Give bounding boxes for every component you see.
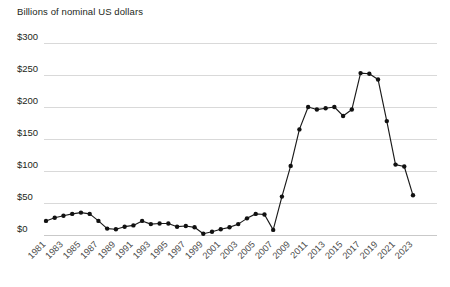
x-tick-label: 2007 [253, 239, 275, 261]
data-point[interactable] [323, 106, 327, 110]
x-tick-label: 2009 [271, 239, 293, 261]
chart-container: Billions of nominal US dollars $300$250$… [0, 0, 450, 287]
line-chart-plot: $300$250$200$150$100$50$0 19811983198519… [0, 0, 450, 287]
x-tick-label: 2015 [323, 239, 345, 261]
x-tick-label: 2019 [358, 239, 380, 261]
data-point[interactable] [184, 224, 188, 228]
data-point[interactable] [149, 222, 153, 226]
x-tick-label: 2017 [340, 239, 362, 261]
data-point[interactable] [280, 194, 284, 198]
data-point[interactable] [262, 212, 266, 216]
data-point[interactable] [288, 164, 292, 168]
y-tick-label: $50 [17, 191, 33, 202]
x-tick-label: 2003 [218, 239, 240, 261]
y-tick-label: $100 [17, 159, 38, 170]
data-point[interactable] [157, 221, 161, 225]
data-point[interactable] [315, 107, 319, 111]
data-point[interactable] [271, 228, 275, 232]
data-point[interactable] [367, 72, 371, 76]
data-point[interactable] [79, 210, 83, 214]
data-point[interactable] [44, 219, 48, 223]
y-tick-label: $200 [17, 95, 38, 106]
data-point[interactable] [227, 225, 231, 229]
data-point[interactable] [122, 224, 126, 228]
data-point[interactable] [131, 223, 135, 227]
x-tick-label: 1991 [113, 239, 135, 261]
data-point[interactable] [61, 214, 65, 218]
data-point[interactable] [236, 222, 240, 226]
x-tick-label: 2001 [201, 239, 223, 261]
data-point[interactable] [210, 230, 214, 234]
x-tick-label: 1989 [96, 239, 118, 261]
data-point[interactable] [175, 224, 179, 228]
data-point[interactable] [297, 127, 301, 131]
data-point[interactable] [105, 226, 109, 230]
x-tick-label: 1985 [61, 239, 83, 261]
data-point[interactable] [140, 219, 144, 223]
data-point[interactable] [254, 212, 258, 216]
data-point[interactable] [201, 232, 205, 236]
y-tick-label: $150 [17, 127, 38, 138]
data-point[interactable] [306, 105, 310, 109]
x-tick-label: 1987 [78, 239, 100, 261]
x-tick-label: 1983 [43, 239, 65, 261]
x-tick-label: 2011 [288, 239, 309, 260]
data-point[interactable] [393, 162, 397, 166]
y-tick-label: $0 [17, 223, 28, 234]
data-point[interactable] [402, 164, 406, 168]
data-point[interactable] [341, 114, 345, 118]
y-tick-label: $250 [17, 63, 38, 74]
data-point[interactable] [96, 219, 100, 223]
data-point[interactable] [358, 71, 362, 75]
x-tick-label: 1999 [183, 239, 205, 261]
data-point[interactable] [411, 193, 415, 197]
data-point[interactable] [53, 216, 57, 220]
y-axis-tick-labels: $300$250$200$150$100$50$0 [17, 31, 38, 234]
data-point[interactable] [166, 221, 170, 225]
y-tick-label: $300 [17, 31, 38, 42]
data-point[interactable] [87, 212, 91, 216]
data-point[interactable] [350, 107, 354, 111]
x-tick-label: 1997 [166, 239, 188, 261]
data-series [44, 71, 415, 236]
series-line [46, 73, 413, 234]
data-point[interactable] [376, 77, 380, 81]
x-tick-label: 2005 [236, 239, 258, 261]
x-tick-label: 2013 [305, 239, 327, 261]
gridlines [44, 44, 437, 236]
data-point[interactable] [219, 227, 223, 231]
data-point[interactable] [70, 212, 74, 216]
data-point[interactable] [192, 225, 196, 229]
x-tick-label: 2023 [393, 239, 415, 261]
x-tick-label: 2021 [375, 239, 397, 261]
x-tick-label: 1993 [131, 239, 153, 261]
data-point[interactable] [245, 216, 249, 220]
data-point[interactable] [114, 227, 118, 231]
data-point[interactable] [332, 105, 336, 109]
x-tick-label: 1995 [148, 239, 170, 261]
data-point[interactable] [385, 119, 389, 123]
x-tick-label: 1981 [26, 239, 48, 261]
x-axis-tick-labels: 1981198319851987198919911993199519971999… [26, 239, 415, 261]
